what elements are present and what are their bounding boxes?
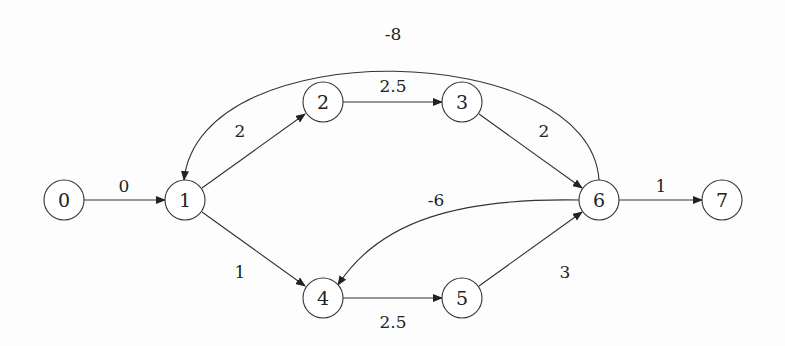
edge-label-6-1: -8 [385,24,402,44]
node-4: 4 [303,278,343,318]
edge-label-4-5: 2.5 [379,312,406,332]
edge-label-1-4: 1 [235,262,246,282]
graph-svg: 0 2 2.5 2 1 2.5 3 1 -8 -6 0 1 2 3 4 5 6 … [0,0,785,346]
edge-label-3-6: 2 [539,121,550,141]
edge-label-6-4: -6 [428,190,445,210]
node-0: 0 [44,180,84,220]
edge-label-1-2: 2 [235,121,246,141]
node-6: 6 [579,180,619,220]
svg-text:4: 4 [317,287,329,309]
node-3: 3 [442,82,482,122]
node-5: 5 [442,278,482,318]
svg-text:3: 3 [456,91,468,113]
edge-label-0-1: 0 [119,176,130,196]
svg-text:0: 0 [58,189,70,211]
node-1: 1 [165,180,205,220]
node-2: 2 [303,82,343,122]
svg-text:1: 1 [179,189,191,211]
svg-text:7: 7 [716,189,728,211]
edge-label-2-3: 2.5 [379,76,406,96]
edge-1-2 [202,114,305,188]
svg-text:2: 2 [317,91,329,113]
svg-text:5: 5 [456,287,468,309]
edge-label-5-6: 3 [560,262,571,282]
edge-1-4 [202,212,305,286]
edge-3-6 [479,114,582,188]
edge-label-6-7: 1 [656,176,667,196]
edge-6-4 [338,200,579,285]
svg-text:6: 6 [593,189,605,211]
node-7: 7 [702,180,742,220]
graph-diagram: 0 2 2.5 2 1 2.5 3 1 -8 -6 0 1 2 3 4 5 6 … [0,0,785,346]
